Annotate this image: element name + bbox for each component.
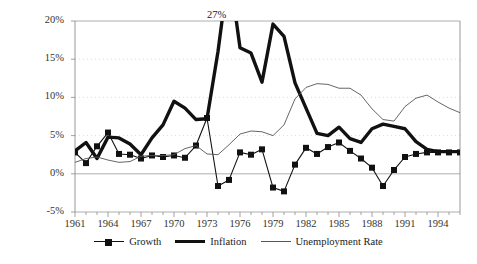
x-axis-tick-label: 1994 <box>418 218 458 229</box>
legend-label-unemployment: Unemployment Rate <box>296 236 383 247</box>
series-line-unemployment-rate <box>75 84 460 163</box>
data-point-marker <box>358 156 364 162</box>
data-point-marker <box>226 177 232 183</box>
legend-label-inflation: Inflation <box>210 236 246 247</box>
chart-legend: Growth Inflation Unemployment Rate <box>0 236 477 247</box>
data-point-marker <box>336 139 342 145</box>
peak-value-annotation: 27% <box>207 9 226 20</box>
legend-item-unemployment[interactable]: Unemployment Rate <box>261 236 383 247</box>
y-axis-tick-label: 10% <box>22 90 64 101</box>
data-point-marker <box>292 162 298 168</box>
data-point-marker <box>83 160 89 166</box>
data-point-marker <box>347 148 353 154</box>
unemployment-line-icon <box>261 237 291 247</box>
data-point-marker <box>94 143 100 149</box>
data-point-marker <box>215 183 221 189</box>
legend-item-inflation[interactable]: Inflation <box>175 236 246 247</box>
series-line-inflation <box>75 0 460 159</box>
legend-item-growth[interactable]: Growth <box>94 236 161 247</box>
data-point-marker <box>314 151 320 157</box>
y-axis-tick-label: 5% <box>22 129 64 140</box>
data-point-marker <box>391 167 397 173</box>
data-point-marker <box>259 146 265 152</box>
growth-line-icon <box>94 237 124 247</box>
data-point-marker <box>369 165 375 171</box>
data-point-marker <box>116 151 122 157</box>
y-axis-tick-label: 0% <box>22 167 64 178</box>
inflation-line-icon <box>175 237 205 247</box>
data-point-marker <box>182 155 188 161</box>
data-point-marker <box>237 149 243 155</box>
legend-label-growth: Growth <box>129 236 161 247</box>
data-point-marker <box>127 152 133 158</box>
data-point-marker <box>413 151 419 157</box>
data-point-marker <box>281 188 287 194</box>
data-point-marker <box>402 154 408 160</box>
data-point-marker <box>380 183 386 189</box>
y-axis-tick-label: 15% <box>22 52 64 63</box>
data-point-marker <box>325 144 331 150</box>
data-point-marker <box>270 185 276 191</box>
data-point-marker <box>105 130 111 136</box>
y-axis-tick-label: -5% <box>22 205 64 216</box>
data-point-marker <box>303 145 309 151</box>
y-axis-tick-label: 20% <box>22 14 64 25</box>
economic-indicators-chart: 20%15%10%5%0%-5% 19611964196719701973197… <box>0 0 477 264</box>
data-point-marker <box>248 152 254 158</box>
